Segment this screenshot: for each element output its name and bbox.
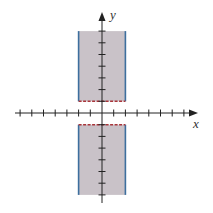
region-plot: x y bbox=[0, 0, 213, 213]
x-axis-label: x bbox=[192, 116, 199, 131]
y-axis-label: y bbox=[108, 7, 116, 22]
y-axis-arrow-icon bbox=[99, 12, 106, 21]
